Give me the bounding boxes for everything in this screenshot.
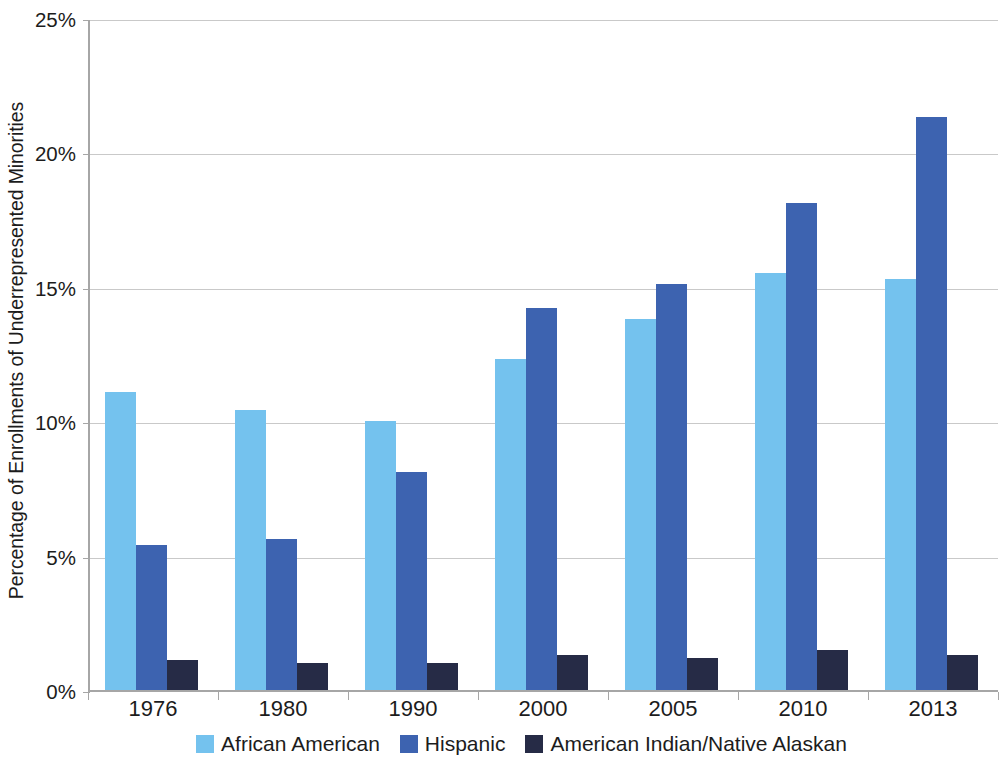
y-axis-tick-mark	[83, 289, 90, 290]
bar[interactable]	[495, 359, 526, 690]
bar-group	[610, 20, 740, 690]
y-axis-tick-label: 10%	[35, 411, 76, 435]
bar-group	[480, 20, 610, 690]
x-axis-tick-label: 2010	[779, 696, 828, 722]
bar-group	[220, 20, 350, 690]
y-axis-tick-mark	[83, 20, 90, 21]
y-axis-tick-label: 25%	[35, 8, 76, 32]
bar[interactable]	[755, 273, 786, 690]
bar-group	[350, 20, 480, 690]
x-axis-tick-label: 2005	[649, 696, 698, 722]
y-axis-tick-mark	[83, 423, 90, 424]
y-axis-title-text: Percentage of Enrollments of Underrepres…	[6, 101, 29, 598]
bar[interactable]	[396, 472, 427, 690]
bar[interactable]	[105, 392, 136, 690]
y-axis-tick-label: 15%	[35, 277, 76, 301]
bar[interactable]	[235, 410, 266, 690]
legend-swatch-icon	[525, 735, 543, 753]
x-axis-tick-label: 2000	[519, 696, 568, 722]
bar[interactable]	[947, 655, 978, 690]
legend-item[interactable]: American Indian/Native Alaskan	[525, 732, 847, 756]
bar-chart: Percentage of Enrollments of Underrepres…	[0, 0, 1003, 757]
legend-label: American Indian/Native Alaskan	[550, 732, 847, 756]
y-axis-tick-mark	[83, 154, 90, 155]
bar-group	[870, 20, 1000, 690]
bar[interactable]	[167, 660, 198, 690]
y-axis-tick-labels: 0%5%10%15%20%25%	[34, 0, 82, 700]
bar[interactable]	[885, 279, 916, 690]
legend-item[interactable]: Hispanic	[400, 732, 506, 756]
bar-group	[740, 20, 870, 690]
x-axis-tick-label: 1976	[129, 696, 178, 722]
bars-layer	[90, 20, 998, 690]
bar[interactable]	[625, 319, 656, 690]
x-axis-tick-label: 2013	[909, 696, 958, 722]
bar[interactable]	[365, 421, 396, 690]
y-axis-tick-label: 5%	[46, 546, 76, 570]
bar[interactable]	[557, 655, 588, 690]
bar[interactable]	[297, 663, 328, 690]
bar[interactable]	[136, 545, 167, 690]
x-axis-tick-mark	[998, 692, 999, 700]
legend-swatch-icon	[400, 735, 418, 753]
legend-item[interactable]: African American	[196, 732, 380, 756]
bar[interactable]	[266, 539, 297, 690]
bar-group	[90, 20, 220, 690]
y-axis-tick-mark	[83, 558, 90, 559]
bar[interactable]	[427, 663, 458, 690]
legend-swatch-icon	[196, 735, 214, 753]
x-axis-tick-label: 1980	[259, 696, 308, 722]
y-axis-title: Percentage of Enrollments of Underrepres…	[0, 0, 34, 700]
bar[interactable]	[656, 284, 687, 690]
bar[interactable]	[786, 203, 817, 690]
bar[interactable]	[687, 658, 718, 690]
bar[interactable]	[526, 308, 557, 690]
legend-label: African American	[221, 732, 380, 756]
bar[interactable]	[916, 117, 947, 690]
x-axis-tick-label: 1990	[389, 696, 438, 722]
bar[interactable]	[817, 650, 848, 690]
plot-area	[88, 20, 998, 692]
y-axis-tick-label: 20%	[35, 142, 76, 166]
y-axis-tick-label: 0%	[46, 680, 76, 704]
chart-legend: African AmericanHispanicAmerican Indian/…	[0, 730, 1003, 757]
legend-label: Hispanic	[425, 732, 506, 756]
x-axis-tick-labels: 1976198019902000200520102013	[88, 696, 998, 730]
